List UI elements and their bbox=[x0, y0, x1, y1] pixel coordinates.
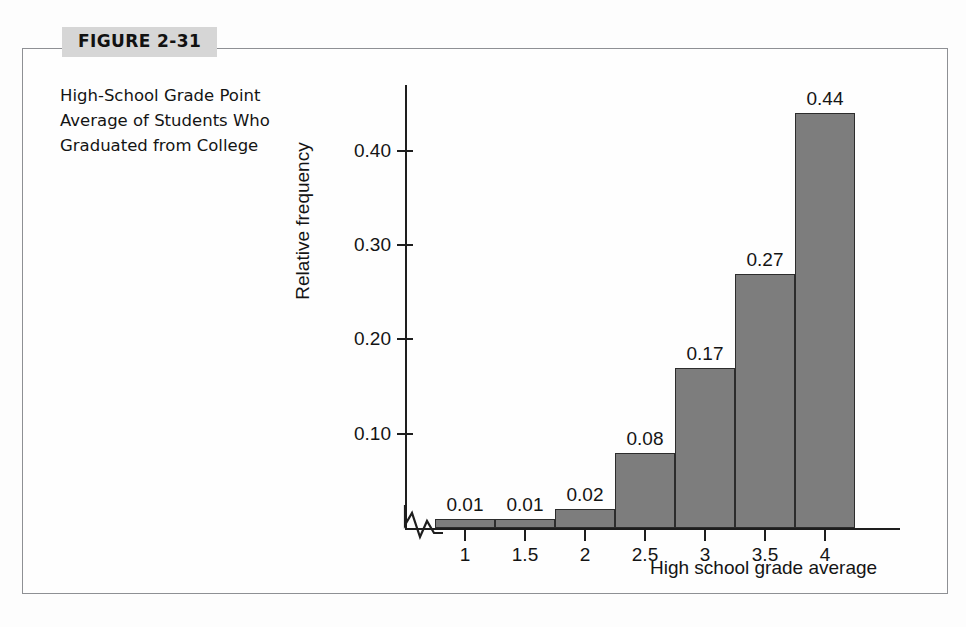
bar bbox=[795, 113, 855, 528]
bar bbox=[675, 368, 735, 528]
x-tick-label: 1 bbox=[435, 545, 495, 564]
x-tick-label: 3.5 bbox=[735, 545, 795, 564]
y-tick bbox=[397, 338, 413, 340]
bar-value-label: 0.08 bbox=[610, 429, 680, 448]
x-tick bbox=[764, 528, 766, 541]
x-tick bbox=[644, 528, 646, 541]
bar-value-label: 0.17 bbox=[670, 344, 740, 363]
x-tick bbox=[464, 528, 466, 541]
figure-number-label: FIGURE 2-31 bbox=[78, 31, 201, 51]
y-tick-label: 0.40 bbox=[301, 141, 391, 160]
y-axis-title: Relative frequency bbox=[292, 96, 314, 346]
y-tick bbox=[397, 433, 413, 435]
bar-value-label: 0.44 bbox=[790, 89, 860, 108]
y-tick-label: 0.10 bbox=[301, 424, 391, 443]
bar bbox=[555, 509, 615, 528]
bar bbox=[615, 453, 675, 528]
plot-area: 0.100.200.300.40 11.522.533.54 0.010.010… bbox=[405, 85, 900, 530]
x-tick bbox=[824, 528, 826, 541]
x-tick-label: 2 bbox=[555, 545, 615, 564]
x-tick-label: 3 bbox=[675, 545, 735, 564]
y-tick bbox=[397, 244, 413, 246]
x-tick-label: 4 bbox=[795, 545, 855, 564]
bar bbox=[435, 519, 495, 528]
x-tick bbox=[524, 528, 526, 541]
figure-caption: High-School Grade Point Average of Stude… bbox=[60, 83, 275, 158]
bar bbox=[735, 274, 795, 528]
x-tick-label: 1.5 bbox=[495, 545, 555, 564]
bar bbox=[495, 519, 555, 528]
y-tick-label: 0.30 bbox=[301, 235, 391, 254]
bar-chart: Relative frequency High school grade ave… bbox=[280, 70, 940, 590]
bar-value-label: 0.02 bbox=[550, 485, 620, 504]
x-tick bbox=[704, 528, 706, 541]
figure-number-tag: FIGURE 2-31 bbox=[62, 27, 217, 57]
figure-page: FIGURE 2-31 High-School Grade Point Aver… bbox=[0, 0, 966, 627]
y-tick-label: 0.20 bbox=[301, 329, 391, 348]
x-tick-label: 2.5 bbox=[615, 545, 675, 564]
x-tick bbox=[584, 528, 586, 541]
y-tick bbox=[397, 150, 413, 152]
bar-value-label: 0.27 bbox=[730, 250, 800, 269]
